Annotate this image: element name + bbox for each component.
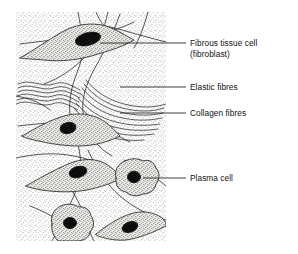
nucleus <box>64 218 77 229</box>
label-fibroblast: Fibrous tissue cell (fibroblast) <box>190 38 257 59</box>
label-fibroblast-line2: (fibroblast) <box>190 49 257 60</box>
plasma-cell-right <box>115 159 159 196</box>
plasma-cell-bottom-left <box>51 204 93 241</box>
nucleus <box>128 171 141 183</box>
label-elastic-fibres-line1: Elastic fibres <box>190 82 238 93</box>
figure-container: Fibrous tissue cell (fibroblast) Elastic… <box>0 0 298 254</box>
label-collagen-fibres: Collagen fibres <box>190 108 246 119</box>
label-plasma-cell: Plasma cell <box>190 173 233 184</box>
label-fibroblast-line1: Fibrous tissue cell <box>190 38 257 49</box>
label-elastic-fibres: Elastic fibres <box>190 82 238 93</box>
label-collagen-fibres-line1: Collagen fibres <box>190 108 246 119</box>
label-plasma-cell-line1: Plasma cell <box>190 173 233 184</box>
